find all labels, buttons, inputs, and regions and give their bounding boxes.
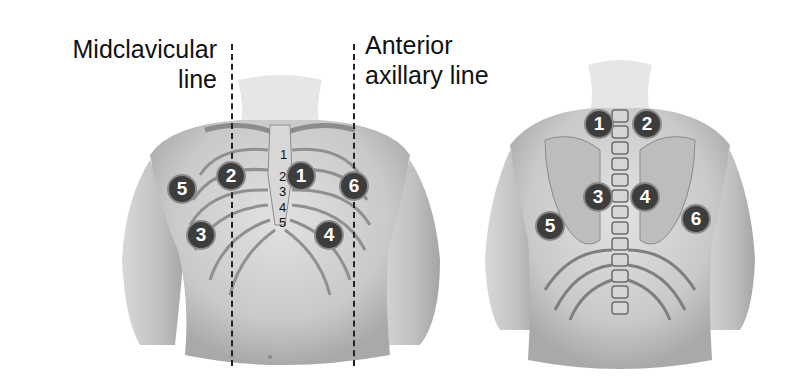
posterior-point-3: 3	[583, 182, 613, 212]
midclavicular-label-line2: line	[20, 64, 217, 94]
posterior-point-4: 4	[630, 182, 660, 212]
anterior-point-4: 4	[314, 220, 344, 250]
posterior-torso	[485, 60, 755, 369]
posterior-point-6: 6	[681, 204, 711, 234]
midclavicular-label: Midclavicular line	[20, 34, 217, 94]
anterior-point-1: 1	[286, 161, 316, 191]
rib-number-2: 2	[279, 170, 286, 184]
midclavicular-line	[231, 44, 233, 366]
posterior-point-1: 1	[584, 109, 614, 139]
midclavicular-label-line1: Midclavicular	[20, 34, 217, 64]
anterior-point-2: 2	[216, 161, 246, 191]
anterior-point-5: 5	[167, 174, 197, 204]
anterior-axillary-line	[353, 44, 355, 366]
rib-number-4: 4	[279, 201, 286, 215]
anterior-point-6: 6	[339, 171, 369, 201]
posterior-point-5: 5	[535, 211, 565, 241]
anterior-axillary-label-line2: axillary line	[365, 60, 565, 90]
rib-number-1: 1	[280, 148, 287, 162]
rib-number-5: 5	[279, 216, 286, 230]
rib-number-3: 3	[279, 185, 286, 199]
anterior-axillary-label: Anterior axillary line	[365, 30, 565, 90]
anterior-point-3: 3	[186, 220, 216, 250]
posterior-point-2: 2	[632, 109, 662, 139]
anterior-axillary-label-line1: Anterior	[365, 30, 565, 60]
